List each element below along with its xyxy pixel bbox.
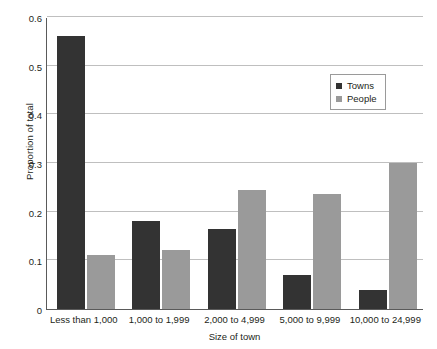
bar-towns bbox=[57, 36, 85, 309]
x-axis-tick-label: 10,000 to 24,999 bbox=[335, 314, 435, 325]
y-axis-tick-label: 0.2 bbox=[2, 207, 42, 218]
bar-group bbox=[273, 18, 348, 309]
legend-swatch-icon bbox=[336, 83, 342, 89]
legend-label: People bbox=[347, 93, 377, 104]
y-axis-tick-label: 0.4 bbox=[2, 110, 42, 121]
y-axis-title: Proportion of total bbox=[24, 67, 35, 217]
y-axis-tick-label: 0.5 bbox=[2, 61, 42, 72]
bar-people bbox=[389, 163, 417, 309]
bar-group bbox=[349, 18, 424, 309]
bar-group bbox=[47, 18, 122, 309]
bar-chart: Proportion of total 00.10.20.30.40.50.6 … bbox=[0, 0, 437, 349]
legend: TownsPeople bbox=[330, 74, 386, 110]
y-axis-tick-label: 0.1 bbox=[2, 256, 42, 267]
bar-group bbox=[122, 18, 197, 309]
y-axis-tick-label: 0.3 bbox=[2, 159, 42, 170]
bar-people bbox=[162, 250, 190, 309]
legend-swatch-icon bbox=[336, 96, 342, 102]
bar-towns bbox=[283, 275, 311, 309]
legend-entry: Towns bbox=[336, 79, 377, 92]
bar-towns bbox=[132, 221, 160, 309]
bar-towns bbox=[359, 290, 387, 309]
bar-people bbox=[238, 190, 266, 309]
legend-entry: People bbox=[336, 92, 377, 105]
plot-area bbox=[46, 18, 423, 310]
gridline bbox=[47, 16, 423, 17]
x-axis-title: Size of town bbox=[46, 331, 423, 342]
legend-label: Towns bbox=[347, 80, 374, 91]
bar-people bbox=[313, 194, 341, 309]
bar-group bbox=[198, 18, 273, 309]
bar-towns bbox=[208, 229, 236, 309]
bar-people bbox=[87, 255, 115, 309]
y-axis-tick-label: 0.6 bbox=[2, 13, 42, 24]
